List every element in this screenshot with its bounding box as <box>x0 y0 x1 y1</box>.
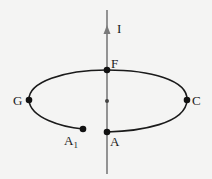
point-F <box>104 67 111 74</box>
diagram-svg: I F G C A1 A <box>0 0 212 179</box>
label-A: A <box>110 134 120 149</box>
point-C <box>184 97 191 104</box>
current-arrow-icon <box>104 25 111 34</box>
label-current: I <box>117 21 121 36</box>
label-A1-subscript: 1 <box>73 140 78 150</box>
label-G: G <box>13 93 22 108</box>
diagram-canvas: I F G C A1 A <box>0 0 212 179</box>
label-F: F <box>111 56 118 71</box>
point-center <box>105 99 109 103</box>
label-A1: A1 <box>64 133 78 150</box>
point-A1 <box>80 126 87 133</box>
label-C: C <box>192 93 201 108</box>
point-G <box>26 97 33 104</box>
